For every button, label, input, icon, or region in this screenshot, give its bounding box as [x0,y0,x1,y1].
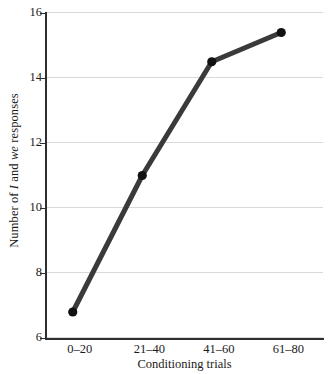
series-line [73,33,282,313]
x-axis-title: Conditioning trials [45,357,324,372]
y-axis-tickmark [40,338,46,339]
data-point-marker [207,57,216,66]
y-axis-tickmark [40,208,46,209]
y-axis-tickmark [40,143,46,144]
x-axis-tick-label: 61–80 [273,342,304,356]
y-axis-tickmark [40,13,46,14]
line-chart: Number of I and we responses 1614121086 … [0,0,329,374]
data-point-marker [68,307,77,316]
y-axis-tickmark [40,78,46,79]
data-series [0,0,329,374]
y-axis-tickmark [40,273,46,274]
x-axis-tick-label: 0–20 [67,342,92,356]
data-point-marker [277,28,286,37]
x-axis-tick-label: 41–60 [203,342,234,356]
data-point-marker [138,171,147,180]
x-axis-tick-label: 21–40 [134,342,165,356]
